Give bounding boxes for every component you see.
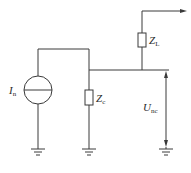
wire-zl-output <box>142 11 180 33</box>
impedance-zl-label: ZL <box>149 34 159 48</box>
ground-icon <box>31 149 45 155</box>
current-source-icon <box>24 76 52 104</box>
output-arrow-icon <box>180 9 187 13</box>
voltage-arrow-up-icon <box>164 71 168 78</box>
impedance-zc-icon <box>85 90 93 105</box>
voltage-arrow-down-icon <box>164 140 168 147</box>
voltage-label: Unc <box>143 101 158 115</box>
impedance-zl-icon <box>138 33 146 47</box>
ground-icon <box>82 149 96 155</box>
circuit-diagram: In Zc ZL Unc <box>0 0 191 173</box>
ground-icon <box>159 149 173 155</box>
wire-source-top <box>38 49 89 76</box>
current-source-label: In <box>8 84 17 98</box>
impedance-zc-label: Zc <box>96 92 105 106</box>
